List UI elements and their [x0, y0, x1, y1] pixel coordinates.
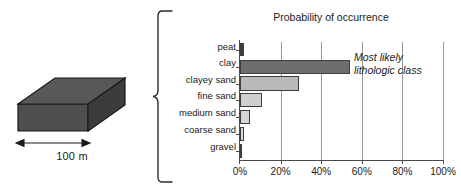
lithologic-class-probability-figure: 100 m Probability of occurrence peat cla…	[0, 0, 461, 194]
category-label-medium-sand: medium sand	[179, 107, 236, 118]
x-tick-40	[321, 160, 322, 164]
annotation-line-2: lithologic class	[354, 64, 422, 77]
most-likely-class-annotation: Most likely lithologic class	[354, 51, 422, 77]
x-tick-label-20: 20%	[271, 166, 291, 177]
category-label-clayey-sand: clayey sand	[186, 74, 236, 85]
x-tick-60	[362, 160, 363, 164]
category-label-coarse-sand: coarse sand	[184, 124, 236, 135]
x-tick-100	[443, 160, 444, 164]
gridline-100	[443, 42, 444, 160]
category-label-gravel: gravel	[210, 141, 236, 152]
bar-gravel	[240, 144, 242, 158]
probability-chart: Probability of occurrence peat clay clay…	[178, 0, 461, 194]
category-label-peat: peat	[218, 41, 237, 52]
bar-medium-sand	[240, 110, 250, 124]
x-tick-label-100: 100%	[430, 166, 456, 177]
x-tick-label-0: 0%	[233, 166, 247, 177]
bar-peat	[240, 43, 244, 56]
category-label-clay: clay	[219, 57, 236, 68]
annotation-line-1: Most likely	[354, 51, 422, 64]
block-front-face	[18, 104, 88, 131]
x-tick-20	[281, 160, 282, 164]
block-diagram: 100 m	[0, 0, 160, 194]
x-tick-label-60: 60%	[352, 166, 372, 177]
category-axis-labels: peat clay clayey sand fine sand medium s…	[178, 42, 236, 160]
x-tick-0	[239, 160, 240, 164]
category-label-fine-sand: fine sand	[197, 90, 236, 101]
x-tick-label-40: 40%	[311, 166, 331, 177]
bar-coarse-sand	[240, 127, 244, 141]
block-dimension-label: 100 m	[18, 150, 126, 162]
x-axis-line	[239, 160, 444, 161]
chart-title: Probability of occurrence	[216, 11, 446, 23]
bar-clay	[240, 60, 350, 74]
block-svg	[0, 0, 160, 194]
bar-clayey-sand	[240, 76, 299, 91]
x-tick-80	[402, 160, 403, 164]
bar-fine-sand	[240, 93, 262, 107]
dimension-arrow	[16, 140, 90, 147]
x-tick-label-80: 80%	[392, 166, 412, 177]
